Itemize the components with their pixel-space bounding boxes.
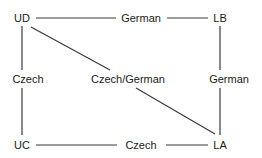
edge-label-bottom-edge-label: Czech: [123, 139, 158, 151]
edge-ud-to-czech-german: [31, 27, 110, 70]
diagram-canvas: UDLBUCLAGermanCzechGermanCzech/GermanCze…: [0, 0, 262, 158]
edge-czech-german-to-la: [136, 88, 215, 134]
node-ud: UD: [12, 12, 32, 24]
node-la: LA: [211, 139, 228, 151]
edge-label-top-edge-label: German: [119, 12, 163, 24]
edge-label-left-edge-label: Czech: [10, 73, 45, 85]
node-uc: UC: [12, 139, 32, 151]
edge-label-right-edge-label: German: [207, 73, 251, 85]
node-lb: LB: [211, 12, 228, 24]
edge-label-diagonal-edge-label: Czech/German: [89, 73, 167, 85]
